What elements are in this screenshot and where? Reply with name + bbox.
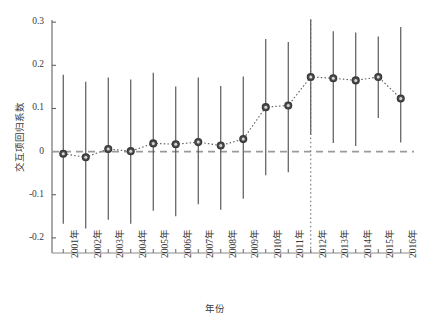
x-tick-label: 2007年: [202, 229, 216, 258]
x-tick-label: 2012年: [315, 229, 329, 258]
x-tick-label: 2008年: [225, 229, 239, 258]
y-axis-title: 交互项回归系数: [12, 102, 26, 172]
y-axis-ticks: [52, 22, 56, 238]
x-tick-label: 2003年: [112, 229, 126, 258]
x-tick-label: 2016年: [405, 229, 419, 258]
y-tick-label: -0.2: [14, 232, 44, 242]
coefficient-plot: [0, 0, 421, 319]
plot-frame: [52, 20, 412, 253]
x-tick-label: 2001年: [67, 229, 81, 258]
y-tick-label: 0.2: [14, 59, 44, 69]
x-tick-label: 2002年: [90, 229, 104, 258]
y-tick-label: 0.3: [14, 16, 44, 26]
error-bars: [63, 19, 401, 228]
x-tick-label: 2010年: [270, 229, 284, 258]
x-tick-label: 2004年: [135, 229, 149, 258]
x-tick-label: 2006年: [180, 229, 194, 258]
x-tick-label: 2005年: [157, 229, 171, 258]
x-tick-label: 2015年: [382, 229, 396, 258]
coefficient-series-line: [63, 77, 401, 157]
x-tick-label: 2009年: [247, 229, 261, 258]
faint-footer-remnant: [0, 300, 421, 319]
x-tick-label: 2013年: [337, 229, 351, 258]
x-tick-label: 2014年: [360, 229, 374, 258]
coefficient-markers: [60, 74, 404, 161]
y-tick-label: -0.1: [14, 189, 44, 199]
x-tick-label: 2011年: [292, 229, 306, 258]
